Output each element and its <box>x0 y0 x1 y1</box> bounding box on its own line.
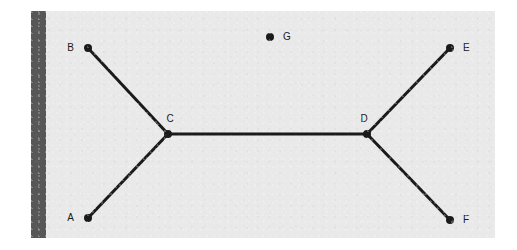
graph-node-d <box>363 130 371 138</box>
graph-node-label-a: A <box>67 212 74 223</box>
diagram-figure: ABCDEFG <box>31 11 495 238</box>
graph-node-f <box>446 216 454 224</box>
graph-node-label-c: C <box>166 113 173 124</box>
graph-diagram: ABCDEFG <box>31 11 495 238</box>
node-layer <box>84 33 454 224</box>
graph-edge-b-c <box>88 48 168 134</box>
graph-node-b <box>84 44 92 52</box>
label-layer: ABCDEFG <box>67 31 470 225</box>
screenshot-canvas: ABCDEFG <box>0 0 517 250</box>
graph-node-label-f: F <box>463 214 469 225</box>
graph-node-a <box>84 214 92 222</box>
graph-node-label-b: B <box>67 42 74 53</box>
graph-edge-d-f <box>367 134 450 220</box>
edge-layer <box>88 48 450 220</box>
graph-edge-d-e <box>367 48 450 134</box>
graph-edge-a-c <box>88 134 168 218</box>
graph-node-e <box>446 44 454 52</box>
graph-node-label-e: E <box>463 42 470 53</box>
graph-node-label-g: G <box>283 31 291 42</box>
graph-node-c <box>164 130 172 138</box>
graph-node-label-d: D <box>360 113 367 124</box>
graph-node-g <box>266 33 274 41</box>
